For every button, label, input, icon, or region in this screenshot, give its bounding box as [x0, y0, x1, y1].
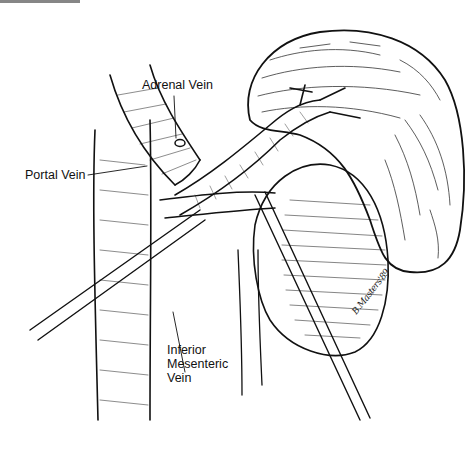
spleen-hatching — [258, 42, 450, 258]
label-adrenal-vein: Adrenal Vein — [142, 78, 213, 92]
retractor-left — [30, 210, 205, 340]
vena-cava-hatching — [100, 160, 148, 405]
adrenal-vein-clip — [175, 140, 185, 147]
label-portal-vein: Portal Vein — [25, 168, 85, 182]
label-imv-line-1: Inferior — [167, 343, 247, 357]
anatomical-illustration — [0, 0, 474, 455]
label-imv-line-3: Vein — [167, 371, 247, 385]
label-imv-line-2: Mesenteric — [167, 357, 247, 371]
portal-vein-hatching — [118, 88, 196, 174]
label-inferior-mesenteric-vein: Inferior Mesenteric Vein — [167, 343, 247, 385]
